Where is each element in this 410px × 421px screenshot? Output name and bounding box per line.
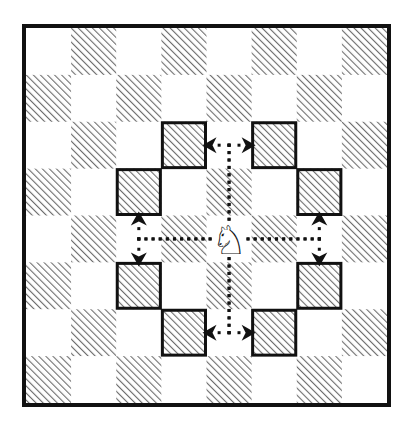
path-dot xyxy=(218,331,221,334)
dark-square xyxy=(342,309,388,356)
light-square xyxy=(342,356,388,403)
path-dot xyxy=(289,237,292,240)
dark-square xyxy=(71,28,117,75)
path-dot xyxy=(137,227,140,230)
path-dot xyxy=(137,237,140,240)
dark-square xyxy=(297,75,343,122)
light-square xyxy=(71,75,117,122)
light-square xyxy=(161,169,207,216)
path-dot xyxy=(228,331,231,334)
light-square xyxy=(26,28,72,75)
dark-square xyxy=(161,28,207,75)
path-dot xyxy=(228,203,231,206)
path-dot xyxy=(261,237,264,240)
light-square xyxy=(161,75,207,122)
path-dot xyxy=(228,188,231,191)
light-square xyxy=(116,309,162,356)
path-dot xyxy=(282,237,285,240)
path-dot xyxy=(304,237,307,240)
path-dot xyxy=(173,237,176,240)
light-square xyxy=(161,262,207,309)
light-square xyxy=(116,122,162,169)
path-dot xyxy=(166,237,169,240)
light-square xyxy=(26,122,72,169)
light-square xyxy=(71,169,117,216)
path-dot xyxy=(228,287,231,290)
path-dot xyxy=(218,144,221,147)
dark-square xyxy=(252,28,298,75)
path-dot xyxy=(311,237,314,240)
path-dot xyxy=(228,166,231,169)
path-dot xyxy=(254,237,257,240)
light-square xyxy=(252,169,298,216)
dark-square xyxy=(297,356,343,403)
path-dot xyxy=(228,196,231,199)
piece-layer: ♘ xyxy=(211,217,247,263)
light-square xyxy=(297,28,343,75)
dark-square xyxy=(26,356,72,403)
light-square xyxy=(297,309,343,356)
path-dot xyxy=(228,144,231,147)
path-dot xyxy=(228,210,231,213)
light-square xyxy=(26,309,72,356)
dark-square xyxy=(342,28,388,75)
path-dot xyxy=(228,159,231,162)
light-square xyxy=(71,262,117,309)
path-dot xyxy=(237,144,240,147)
path-dot xyxy=(159,237,162,240)
path-dot xyxy=(318,248,321,251)
target-square xyxy=(298,263,341,308)
light-square xyxy=(342,75,388,122)
path-dot xyxy=(180,237,183,240)
path-dot xyxy=(228,316,231,319)
dark-square xyxy=(207,356,253,403)
path-dot xyxy=(268,237,271,240)
path-dot xyxy=(152,237,155,240)
target-square xyxy=(298,170,341,215)
target-square xyxy=(117,263,160,308)
path-dot xyxy=(187,237,190,240)
dark-square xyxy=(116,75,162,122)
light-square xyxy=(342,169,388,216)
path-dot xyxy=(228,151,231,154)
dark-square xyxy=(71,216,117,263)
light-square xyxy=(116,28,162,75)
white-knight-icon: ♘ xyxy=(211,217,247,263)
target-square xyxy=(162,123,205,168)
path-dot xyxy=(228,302,231,305)
knight-move-diagram: ♘ xyxy=(0,0,410,421)
path-dot xyxy=(228,324,231,327)
path-dot xyxy=(296,237,299,240)
light-square xyxy=(252,75,298,122)
path-dot xyxy=(144,237,147,240)
dark-square xyxy=(207,75,253,122)
path-dot xyxy=(228,181,231,184)
target-square xyxy=(117,170,160,215)
dark-square xyxy=(71,309,117,356)
dark-square xyxy=(71,122,117,169)
light-square xyxy=(26,216,72,263)
path-dot xyxy=(318,237,321,240)
light-square xyxy=(342,262,388,309)
path-dot xyxy=(194,237,197,240)
path-dot xyxy=(228,265,231,268)
target-square xyxy=(162,310,205,355)
light-square xyxy=(71,356,117,403)
path-dot xyxy=(228,309,231,312)
light-square xyxy=(252,262,298,309)
dark-square xyxy=(342,122,388,169)
path-dot xyxy=(137,248,140,251)
dark-square xyxy=(26,262,72,309)
path-dot xyxy=(201,237,204,240)
target-square xyxy=(253,310,296,355)
dark-square xyxy=(116,356,162,403)
light-square xyxy=(297,122,343,169)
path-dot xyxy=(237,331,240,334)
path-dot xyxy=(228,279,231,282)
path-dot xyxy=(228,272,231,275)
dark-square xyxy=(26,75,72,122)
path-dot xyxy=(228,294,231,297)
target-square xyxy=(253,123,296,168)
dark-square xyxy=(342,216,388,263)
path-dot xyxy=(318,227,321,230)
